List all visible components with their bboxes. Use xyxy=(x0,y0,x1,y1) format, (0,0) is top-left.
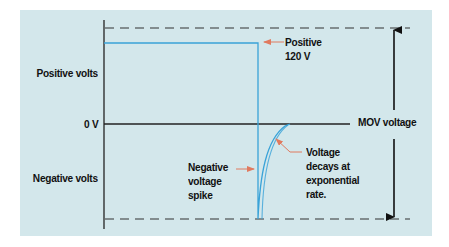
positive-volts-label: Positive volts xyxy=(36,67,98,80)
negative-spike-label-line3: spike xyxy=(188,189,213,202)
decay-callout-arrow xyxy=(276,139,302,152)
decay-label-line4: rate. xyxy=(306,188,326,201)
decay-label-line3: exponential xyxy=(306,174,359,187)
decay-label-line2: decays at xyxy=(306,160,350,173)
zero-volts-label: 0 V xyxy=(84,118,98,131)
decay-label-line1: Voltage xyxy=(306,146,340,159)
positive-120-label-line2: 120 V xyxy=(285,50,310,63)
mov-voltage-label: MOV voltage xyxy=(358,116,416,129)
negative-spike-label-line1: Negative xyxy=(188,161,228,174)
negative-spike-label-line2: voltage xyxy=(188,175,222,188)
positive-120-label-line1: Positive xyxy=(285,36,322,49)
decay-curve-inner xyxy=(262,125,288,219)
negative-volts-label: Negative volts xyxy=(33,172,98,185)
